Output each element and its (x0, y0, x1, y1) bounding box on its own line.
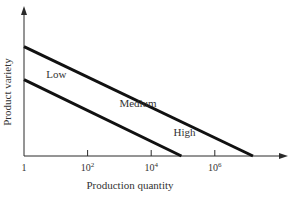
region-label-high: High (173, 126, 196, 138)
y-axis-arrow-icon (21, 6, 27, 15)
y-axis-label: Product variety (1, 58, 13, 126)
x-axis-label: Production quantity (86, 179, 174, 191)
x-tick-label: 1 (22, 162, 27, 173)
region-label-low: Low (46, 68, 66, 80)
x-tick-label: 106 (208, 161, 222, 173)
production-variety-chart: 1102104106 LowMediumHigh Production quan… (0, 0, 297, 200)
x-axis-arrow-icon (279, 153, 288, 159)
region-label-medium: Medium (119, 97, 157, 109)
lower-boundary-line (24, 80, 181, 156)
x-ticks: 1102104106 (22, 150, 223, 173)
x-tick-label: 104 (144, 161, 158, 173)
x-tick-label: 102 (81, 161, 95, 173)
